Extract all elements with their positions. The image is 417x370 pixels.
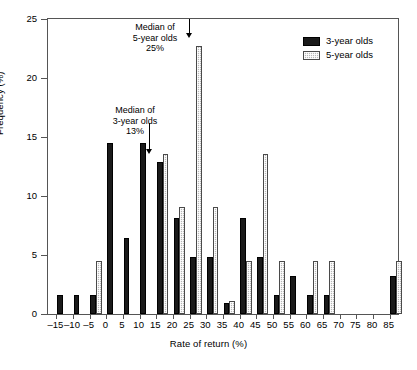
annotation-line: 25% — [116, 43, 194, 54]
bar-5-year-olds-30 — [213, 207, 219, 314]
bar-3-year-olds-45 — [257, 257, 263, 314]
bar-5-year-olds-25 — [196, 46, 202, 314]
bar-5-year-olds-40 — [246, 261, 252, 314]
bar-3-year-olds-30 — [207, 257, 213, 314]
annotation-arrow-5-year-olds — [185, 19, 194, 38]
bar-3-year-olds-15 — [157, 162, 163, 314]
annotation-line: 13% — [96, 126, 174, 137]
bar-3-year-olds--15 — [57, 295, 63, 314]
y-tick — [41, 255, 48, 256]
bar-3-year-olds-5 — [124, 238, 130, 314]
bar-5-year-olds-45 — [263, 154, 269, 314]
bar-5-year-olds--5 — [96, 261, 102, 314]
legend-item-3-year-olds: 3-year olds — [303, 35, 373, 47]
arrow-head — [186, 33, 192, 38]
bar-3-year-olds-25 — [190, 257, 196, 314]
y-tick-label: 5 — [11, 250, 37, 260]
y-tick — [41, 137, 48, 138]
bar-3-year-olds-10 — [140, 143, 146, 314]
bar-3-year-olds-55 — [290, 276, 296, 314]
bar-3-year-olds-85 — [390, 276, 396, 314]
annotation-median-5-year-olds: Median of 5-year olds 25% — [116, 22, 194, 54]
bar-3-year-olds-35 — [224, 303, 230, 314]
bar-3-year-olds-40 — [240, 218, 246, 314]
bar-5-year-olds-20 — [179, 207, 185, 314]
bar-3-year-olds-60 — [307, 295, 313, 314]
bar-3-year-olds-50 — [274, 295, 280, 314]
annotation-median-3-year-olds: Median of 3-year olds 13% — [96, 105, 174, 137]
legend-swatch-5-year-olds — [303, 51, 320, 60]
y-tick — [41, 196, 48, 197]
bar-5-year-olds-65 — [329, 261, 335, 314]
y-tick — [41, 314, 48, 315]
annotation-line: 5-year olds — [116, 33, 194, 44]
bar-3-year-olds--5 — [90, 295, 96, 314]
legend-label-3-year-olds: 3-year olds — [326, 35, 373, 47]
bar-3-year-olds--10 — [74, 295, 80, 314]
y-tick-label: 10 — [11, 191, 37, 201]
arrow-shaft — [149, 123, 150, 149]
legend-swatch-3-year-olds — [303, 37, 320, 46]
bar-5-year-olds-35 — [229, 301, 235, 314]
bar-3-year-olds-0 — [107, 143, 113, 314]
annotation-line: 3-year olds — [96, 116, 174, 127]
y-tick-label: 25 — [11, 14, 37, 24]
bar-5-year-olds-15 — [163, 154, 169, 314]
bar-3-year-olds-20 — [174, 218, 180, 314]
legend-item-5-year-olds: 5-year olds — [303, 49, 373, 61]
y-tick-label: 0 — [11, 309, 37, 319]
bars-layer — [48, 19, 398, 314]
bar-5-year-olds-60 — [313, 261, 319, 314]
x-tick-label: 85 — [373, 320, 405, 330]
bar-5-year-olds-85 — [396, 261, 402, 314]
legend: 3-year olds 5-year olds — [303, 35, 373, 63]
legend-label-5-year-olds: 5-year olds — [326, 49, 373, 61]
annotation-line: Median of — [96, 105, 174, 116]
y-tick-label: 20 — [11, 73, 37, 83]
x-axis-title: Rate of return (%) — [0, 338, 417, 349]
bar-3-year-olds-65 — [324, 295, 330, 314]
annotation-line: Median of — [116, 22, 194, 33]
y-tick — [41, 78, 48, 79]
y-tick — [41, 19, 48, 20]
arrow-shaft — [189, 19, 190, 33]
bar-5-year-olds-50 — [279, 261, 285, 314]
plot-area: 3-year olds 5-year olds Median of 5-year… — [47, 18, 399, 315]
annotation-arrow-3-year-olds — [145, 123, 154, 154]
chart-figure: Frequency (%) 0510152025 3-year olds 5-y… — [0, 0, 417, 370]
y-axis-title: Frequency (%) — [0, 15, 5, 135]
y-tick-label: 15 — [11, 132, 37, 142]
arrow-head — [146, 149, 152, 154]
